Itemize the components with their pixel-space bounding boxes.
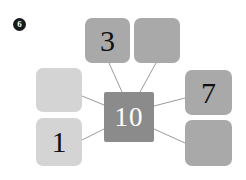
number-box-right-top-value: 7 — [201, 78, 216, 108]
number-box-right-top[interactable]: 7 — [185, 70, 232, 115]
connector-top-right-to-center — [140, 63, 156, 92]
connector-left-bottom-to-center — [82, 129, 104, 140]
connector-top-left-to-center — [109, 63, 122, 92]
number-box-left-bottom-value: 1 — [52, 127, 67, 157]
number-box-top-left-value: 3 — [100, 26, 115, 56]
connector-left-top-to-center — [82, 96, 104, 105]
number-box-center-value: 10 — [115, 104, 144, 131]
worksheet-canvas: 6 3 1 7 10 — [0, 0, 246, 180]
number-box-right-bottom[interactable] — [185, 120, 232, 166]
number-box-left-bottom[interactable]: 1 — [36, 118, 82, 166]
connector-right-bottom-to-center — [154, 129, 185, 143]
number-box-top-left[interactable]: 3 — [85, 18, 130, 63]
number-box-left-top[interactable] — [36, 68, 82, 112]
number-box-center[interactable]: 10 — [104, 92, 154, 142]
number-box-top-right[interactable] — [134, 18, 180, 63]
connector-right-top-to-center — [154, 98, 185, 106]
